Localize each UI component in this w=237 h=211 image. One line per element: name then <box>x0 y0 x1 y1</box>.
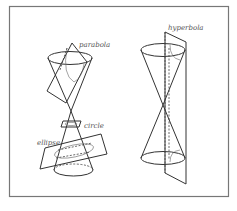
lower-cone-rim <box>141 152 185 165</box>
label-parabola: parabola <box>79 41 110 49</box>
circle-plane <box>61 121 81 127</box>
hyperbola-curve-upper <box>170 45 180 60</box>
upper-cone-rim <box>48 52 92 65</box>
lower-cone-rim-front <box>54 170 93 176</box>
right-double-cone <box>141 32 186 184</box>
conic-sections-diagram: parabola circle ellipse hyperbola <box>0 0 237 211</box>
parabola-curve <box>66 48 84 82</box>
label-circle: circle <box>84 122 104 130</box>
label-ellipse: ellipse <box>37 139 60 147</box>
upper-cone-rim <box>141 44 185 57</box>
left-double-cone <box>48 52 93 177</box>
label-hyperbola: hyperbola <box>168 24 204 32</box>
